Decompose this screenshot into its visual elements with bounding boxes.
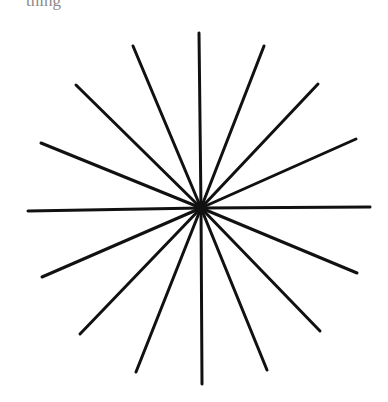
ray-line: [80, 208, 201, 334]
ray-line: [201, 208, 202, 384]
ray-line: [199, 33, 201, 208]
center-hub: [196, 203, 206, 213]
ray-line: [201, 207, 370, 208]
starburst-diagram: [0, 0, 388, 402]
ray-line: [28, 208, 201, 211]
ray-line: [201, 84, 318, 208]
ray-line: [76, 85, 201, 208]
ray-line: [201, 208, 320, 331]
